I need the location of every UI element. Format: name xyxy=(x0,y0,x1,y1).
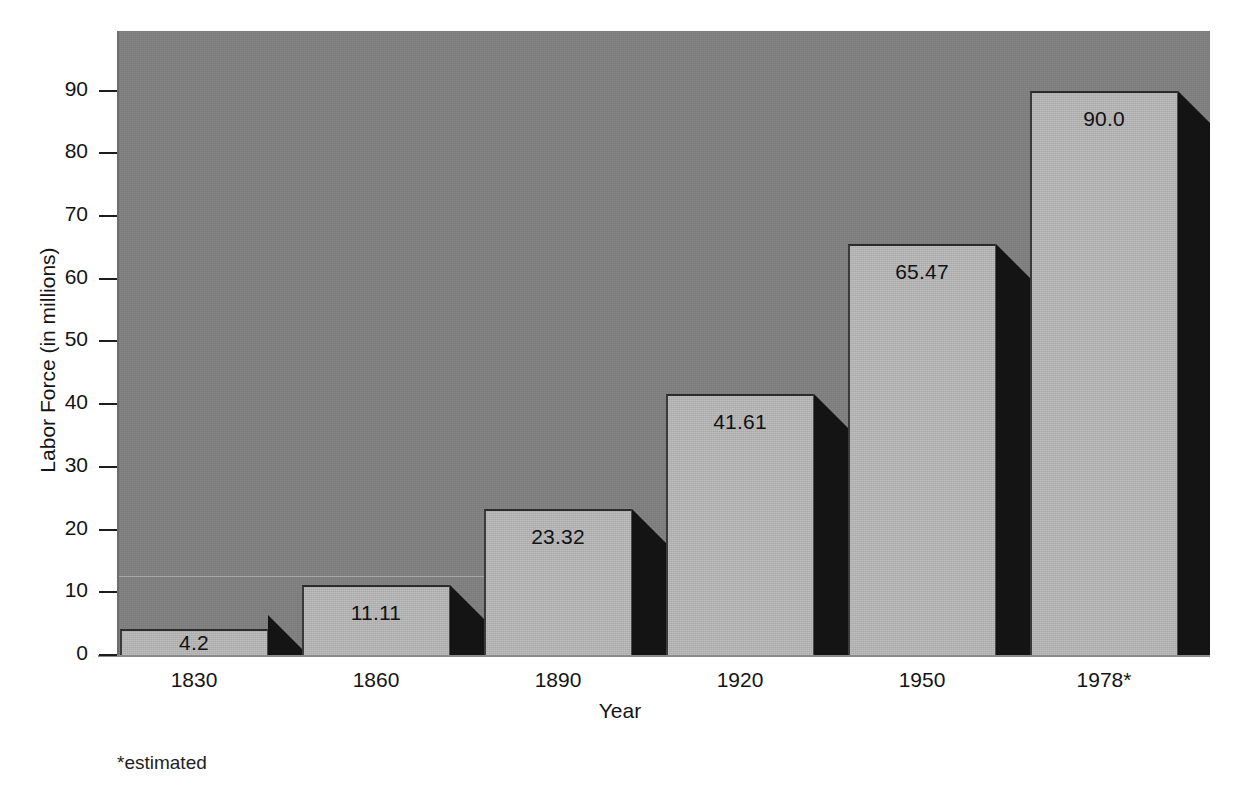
bar-value-label: 23.32 xyxy=(484,525,632,549)
bar-value-label: 11.11 xyxy=(302,601,450,625)
bar-value-label: 41.61 xyxy=(666,410,814,434)
y-axis-tick xyxy=(99,278,117,280)
bar-front-face xyxy=(1030,91,1178,655)
y-axis-tick-label: 90 xyxy=(65,77,88,101)
bar-top-3d xyxy=(1178,91,1210,131)
plot-area: 4.211.1123.3241.6165.4790.0 xyxy=(118,31,1210,655)
y-axis-tick xyxy=(99,215,117,217)
y-axis-tick xyxy=(99,654,117,656)
y-axis-tick xyxy=(99,466,117,468)
bar[interactable]: 65.47 xyxy=(848,244,996,655)
x-axis-title: Year xyxy=(0,699,1240,723)
y-axis-tick-label: 40 xyxy=(65,390,88,414)
bar[interactable]: 4.2 xyxy=(120,629,268,655)
y-axis-tick-label: 20 xyxy=(65,516,88,540)
bar-front-face xyxy=(848,244,996,655)
bar-value-label: 65.47 xyxy=(848,260,996,284)
bar[interactable]: 41.61 xyxy=(666,394,814,655)
x-axis-tick-label: 1920 xyxy=(650,668,830,692)
y-axis-tick-label: 10 xyxy=(65,578,88,602)
bar[interactable]: 23.32 xyxy=(484,509,632,655)
y-axis-tick-label: 80 xyxy=(65,139,88,163)
x-axis-tick-label: 1950 xyxy=(832,668,1012,692)
bar-value-label: 90.0 xyxy=(1030,107,1178,131)
y-axis-tick xyxy=(99,152,117,154)
y-axis-tick-label: 70 xyxy=(65,202,88,226)
bar[interactable]: 90.0 xyxy=(1030,91,1178,655)
x-axis-tick-label: 1890 xyxy=(468,668,648,692)
x-axis-line xyxy=(98,655,1210,657)
x-axis-tick-label: 1978* xyxy=(1014,668,1194,692)
y-axis-tick xyxy=(99,591,117,593)
bar-chart-figure: 4.211.1123.3241.6165.4790.0 010203040506… xyxy=(0,0,1240,790)
y-axis-title: Labor Force (in millions) xyxy=(36,200,60,520)
y-axis-tick-label: 0 xyxy=(76,641,88,665)
y-axis-tick xyxy=(99,403,117,405)
y-axis-tick xyxy=(99,529,117,531)
bar-value-label: 4.2 xyxy=(120,631,268,655)
y-axis-tick-label: 50 xyxy=(65,327,88,351)
footnote: *estimated xyxy=(117,752,207,774)
y-axis-line xyxy=(117,31,119,655)
y-axis-tick-label: 30 xyxy=(65,453,88,477)
y-axis-tick xyxy=(99,90,117,92)
bar[interactable]: 11.11 xyxy=(302,585,450,655)
bar-side-3d xyxy=(1178,131,1210,655)
x-axis-tick-label: 1860 xyxy=(286,668,466,692)
x-axis-tick-label: 1830 xyxy=(104,668,284,692)
y-axis-tick-label: 60 xyxy=(65,265,88,289)
y-axis-tick xyxy=(99,340,117,342)
